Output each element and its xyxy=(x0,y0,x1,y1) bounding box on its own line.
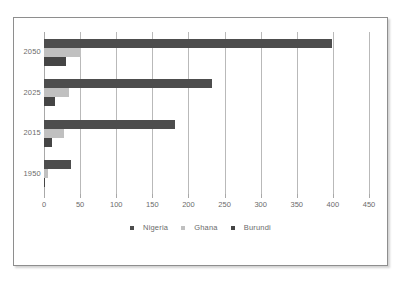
x-tick-label: 350 xyxy=(291,200,304,209)
bar-burundi-2025 xyxy=(44,97,55,106)
gridline xyxy=(225,32,226,194)
gridline xyxy=(152,32,153,194)
x-tick-label: 150 xyxy=(146,200,159,209)
x-tick-mark xyxy=(369,194,370,198)
legend-label: Nigeria xyxy=(143,223,168,232)
bar-burundi-2015 xyxy=(44,138,52,147)
bar-burundi-1950 xyxy=(44,178,45,187)
x-tick-mark xyxy=(188,194,189,198)
legend-swatch-icon xyxy=(181,226,185,230)
legend-item-ghana[interactable]: Ghana xyxy=(181,223,218,232)
y-axis-category-label: 1950 xyxy=(15,169,41,178)
x-tick-mark xyxy=(80,194,81,198)
legend-swatch-icon xyxy=(231,226,235,230)
gridline xyxy=(116,32,117,194)
x-tick-mark xyxy=(152,194,153,198)
x-axis-ticks: 050100150200250300350400450 xyxy=(44,194,369,216)
legend-item-burundi[interactable]: Burundi xyxy=(231,223,271,232)
chart-legend: NigeriaGhanaBurundi xyxy=(14,223,387,232)
x-tick-label: 250 xyxy=(218,200,231,209)
gridline xyxy=(261,32,262,194)
legend-label: Burundi xyxy=(244,223,271,232)
x-tick-mark xyxy=(116,194,117,198)
gridline xyxy=(369,32,370,194)
x-tick-label: 200 xyxy=(182,200,195,209)
gridline xyxy=(188,32,189,194)
bar-burundi-2050 xyxy=(44,57,66,66)
x-tick-mark xyxy=(44,194,45,198)
x-tick-mark xyxy=(225,194,226,198)
bar-nigeria-2050 xyxy=(44,39,332,48)
x-tick-label: 450 xyxy=(363,200,376,209)
legend-item-nigeria[interactable]: Nigeria xyxy=(130,223,168,232)
x-tick-label: 300 xyxy=(254,200,267,209)
chart-container: 2050202520151950 05010015020025030035040… xyxy=(13,17,388,266)
x-tick-mark xyxy=(261,194,262,198)
bar-nigeria-1950 xyxy=(44,160,71,169)
x-tick-label: 0 xyxy=(42,200,46,209)
gridline xyxy=(333,32,334,194)
gridline xyxy=(297,32,298,194)
x-tick-mark xyxy=(333,194,334,198)
plot-area: 2050202520151950 xyxy=(44,32,369,194)
x-tick-mark xyxy=(297,194,298,198)
legend-label: Ghana xyxy=(194,223,218,232)
bar-nigeria-2015 xyxy=(44,120,175,129)
bar-ghana-2015 xyxy=(44,129,64,138)
x-tick-label: 100 xyxy=(110,200,123,209)
x-tick-label: 400 xyxy=(327,200,340,209)
x-tick-label: 50 xyxy=(76,200,84,209)
bar-nigeria-2025 xyxy=(44,79,212,88)
y-axis-category-label: 2050 xyxy=(15,47,41,56)
bar-ghana-2050 xyxy=(44,48,81,57)
bar-ghana-2025 xyxy=(44,88,69,97)
y-axis-category-label: 2015 xyxy=(15,128,41,137)
y-axis-category-label: 2025 xyxy=(15,88,41,97)
plot-wrapper: 2050202520151950 05010015020025030035040… xyxy=(14,18,387,265)
legend-swatch-icon xyxy=(130,226,134,230)
bar-ghana-1950 xyxy=(44,169,48,178)
